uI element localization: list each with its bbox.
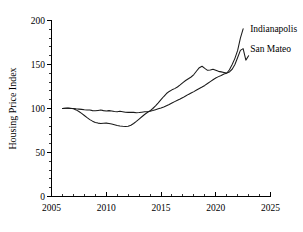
housing-price-index-chart: 050100150200 Housing Price Index 2005201…: [0, 0, 303, 232]
x-tick-label: 2015: [152, 203, 171, 213]
chart-canvas: 050100150200 Housing Price Index 2005201…: [0, 0, 303, 232]
x-axis-tick-labels: 20052010201520202025: [42, 203, 280, 213]
series-labels-group: Indianapolis San Mateo: [250, 24, 297, 54]
y-axis-tick-labels: 050100150200: [31, 16, 46, 202]
y-axis-title: Housing Price Index: [7, 67, 18, 149]
y-tick-label: 50: [36, 148, 46, 158]
series-line-san-mateo: [62, 49, 248, 127]
x-axis-group: 20052010201520202025: [42, 192, 280, 213]
x-tick-label: 2020: [206, 203, 225, 213]
y-tick-label: 0: [40, 192, 45, 202]
series-label-indianapolis: Indianapolis: [250, 24, 297, 34]
y-tick-label: 150: [31, 60, 46, 70]
x-tick-label: 2010: [97, 203, 116, 213]
y-axis-group: 050100150200 Housing Price Index: [7, 16, 52, 202]
x-tick-label: 2005: [42, 203, 61, 213]
y-tick-label: 200: [31, 16, 46, 26]
y-tick-label: 100: [31, 104, 46, 114]
x-tick-label: 2025: [261, 203, 280, 213]
series-label-san-mateo: San Mateo: [250, 44, 291, 54]
plot-series-group: [62, 29, 248, 127]
